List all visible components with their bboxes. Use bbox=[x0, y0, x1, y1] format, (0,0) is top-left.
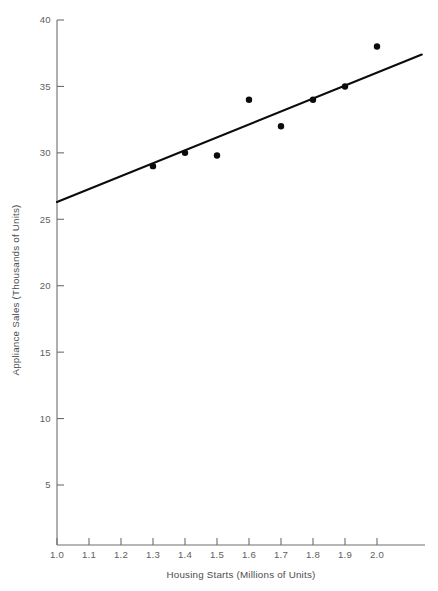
y-tick-label: 35 bbox=[40, 81, 51, 92]
scatter-plot-figure: 510152025303540 1.01.11.21.31.41.51.61.7… bbox=[0, 0, 438, 591]
x-axis: 1.01.11.21.31.41.51.61.71.81.92.0 bbox=[50, 538, 425, 560]
y-tick-label: 30 bbox=[40, 147, 51, 158]
data-point-marker bbox=[310, 97, 316, 103]
x-tick-label: 1.5 bbox=[210, 549, 224, 560]
x-tick-label: 1.1 bbox=[82, 549, 96, 560]
x-tick-label: 1.3 bbox=[146, 549, 160, 560]
x-tick-label: 1.9 bbox=[338, 549, 352, 560]
x-tick-label: 1.8 bbox=[306, 549, 320, 560]
regression-line-segment bbox=[57, 55, 422, 202]
x-tick-label: 1.7 bbox=[274, 549, 288, 560]
y-axis: 510152025303540 bbox=[40, 14, 64, 545]
y-tick-label: 5 bbox=[45, 479, 51, 490]
y-tick-label: 20 bbox=[40, 280, 51, 291]
y-tick-label: 15 bbox=[40, 347, 51, 358]
x-tick-label: 1.0 bbox=[50, 549, 64, 560]
data-point-marker bbox=[278, 123, 284, 129]
plot-canvas: 510152025303540 1.01.11.21.31.41.51.61.7… bbox=[0, 0, 438, 591]
y-tick-label: 40 bbox=[40, 14, 51, 25]
data-point-marker bbox=[214, 152, 220, 158]
y-axis-title: Appliance Sales (Thousands of Units) bbox=[10, 204, 21, 375]
data-point-marker bbox=[150, 163, 156, 169]
data-point-marker bbox=[182, 150, 188, 156]
x-axis-ticks: 1.01.11.21.31.41.51.61.71.81.92.0 bbox=[50, 538, 384, 560]
x-tick-label: 1.6 bbox=[242, 549, 256, 560]
x-tick-label: 1.2 bbox=[114, 549, 128, 560]
x-tick-label: 1.4 bbox=[178, 549, 193, 560]
regression-line bbox=[57, 55, 422, 202]
y-axis-ticks: 510152025303540 bbox=[40, 14, 64, 490]
y-tick-label: 10 bbox=[40, 413, 51, 424]
data-point-marker bbox=[246, 97, 252, 103]
data-point-marker bbox=[374, 43, 380, 49]
x-tick-label: 2.0 bbox=[370, 549, 384, 560]
data-points-group bbox=[150, 43, 380, 169]
y-tick-label: 25 bbox=[40, 214, 51, 225]
x-axis-title: Housing Starts (Millions of Units) bbox=[167, 569, 316, 580]
data-point-marker bbox=[342, 83, 348, 89]
